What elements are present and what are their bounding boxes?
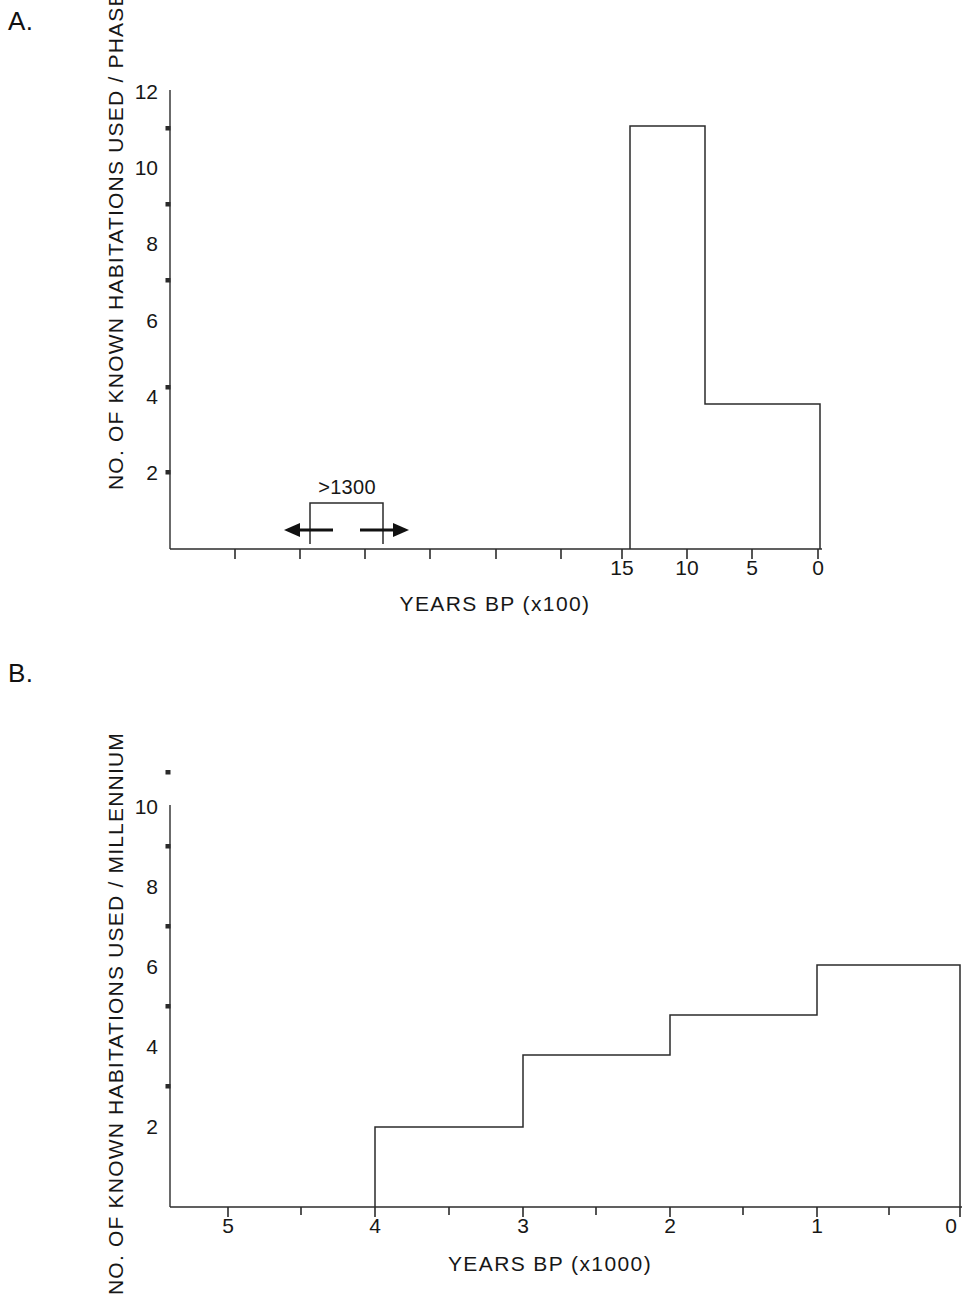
panel-b-plot [0,640,965,1313]
panel-a-ytick-dot-4 [166,385,171,390]
panel-b-ytick-dot-5 [166,1004,171,1009]
panel-a: A. NO. OF KNOWN HABITATIONS USED / PHASE… [0,0,965,640]
panel-a-plot [0,0,965,640]
panel-b-x-ticks [228,1207,960,1217]
panel-a-range-bracket [310,503,383,544]
panel-a-left-arrow-icon [284,523,333,537]
panel-b-histogram-outline [375,965,960,1207]
panel-b-ytick-dot-9 [166,844,171,849]
panel-a-x-ticks [235,549,818,559]
panel-a-ytick-dot-9 [166,202,171,207]
panel-b-ytick-dot-7 [166,924,171,929]
panel-b-ytick-dot-3 [166,1084,171,1089]
panel-b-ytick-dot-11 [166,770,171,775]
panel-a-ytick-dot-7 [166,278,171,283]
figure: A. NO. OF KNOWN HABITATIONS USED / PHASE… [0,0,965,1313]
panel-a-right-arrow-icon [360,523,409,537]
panel-a-histogram-outline [630,126,820,549]
panel-b: B. NO. OF KNOWN HABITATIONS USED / MILLE… [0,640,965,1313]
panel-a-ytick-dot-2 [166,470,171,475]
panel-a-ytick-dot-11 [166,126,171,131]
